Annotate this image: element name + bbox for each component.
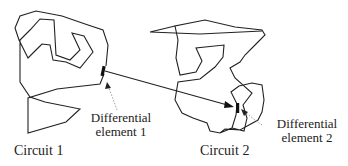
element-2-label: Differential element 2 [268,117,346,145]
circuit-2-label: Circuit 2 [200,144,249,158]
element-1-label-line2: element 1 [86,125,156,139]
differential-element-1 [100,66,105,76]
element-2-label-line1: Differential [268,117,346,131]
separation-vector [105,71,231,106]
differential-element-2 [236,103,239,113]
element-2-label-line2: element 2 [268,131,346,145]
separation-arrowhead [224,101,234,108]
pointer-element-1 [109,88,117,110]
element-1-label-line1: Differential [86,111,156,125]
element-1-label: Differential element 1 [86,111,156,139]
circuit-2-wire [175,20,265,133]
pointer-element-2 [246,113,262,125]
circuit-2-upper-wire [150,26,262,34]
pointer-element-1-head [105,82,111,89]
circuit-1-label: Circuit 1 [14,144,63,158]
